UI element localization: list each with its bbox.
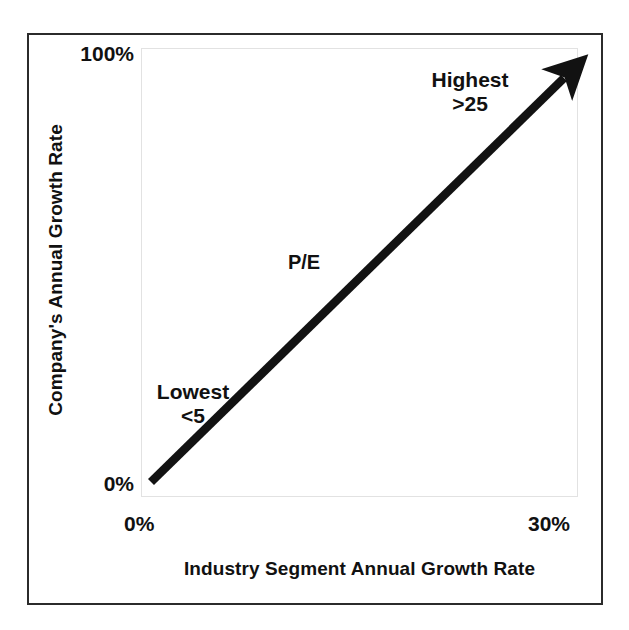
annotation-pe: P/E (272, 251, 336, 274)
annotation-lowest-line1: Lowest (157, 380, 229, 403)
x-axis-tick-left: 0% (124, 512, 184, 536)
annotation-lowest-line2: <5 (128, 404, 258, 428)
annotation-highest-line2: >25 (400, 92, 540, 116)
y-axis-tick-bottom: 0% (66, 472, 134, 496)
annotation-pe-label: P/E (288, 251, 320, 273)
annotation-highest-line1: Highest (431, 68, 508, 91)
chart-figure: Company's Annual Growth Rate Industry Se… (0, 0, 629, 630)
y-axis-title: Company's Annual Growth Rate (36, 40, 76, 500)
x-axis-title: Industry Segment Annual Growth Rate (141, 558, 578, 580)
y-axis-tick-top: 100% (66, 42, 134, 66)
annotation-highest: Highest >25 (400, 68, 540, 116)
annotation-lowest: Lowest <5 (128, 380, 258, 428)
x-axis-tick-right: 30% (500, 512, 570, 536)
